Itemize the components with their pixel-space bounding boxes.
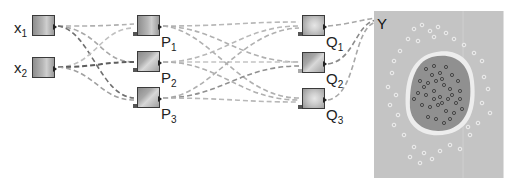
node-label-x1: x1	[14, 20, 27, 39]
node-label-p3: P3	[161, 106, 177, 125]
input-node-x2[interactable]	[32, 57, 55, 78]
input-node-x1[interactable]	[32, 15, 55, 36]
node-label-q3: Q3	[326, 107, 343, 126]
node-label-x2: x2	[14, 60, 27, 79]
output-label-y: Y	[377, 15, 387, 32]
hidden-node-q3[interactable]	[302, 88, 325, 109]
node-label-p1: P1	[161, 34, 177, 53]
decision-surface	[374, 11, 503, 178]
output-port-icon	[158, 96, 162, 102]
node-label-q1: Q1	[326, 34, 343, 53]
network-diagram: x1 x2 P1 P2 P3 Q1 Q2	[0, 0, 519, 190]
hidden-node-p1[interactable]	[137, 15, 160, 36]
input-port-icon	[133, 104, 137, 108]
node-label-q2: Q2	[326, 71, 343, 90]
input-port-icon	[133, 32, 137, 36]
output-port-icon	[53, 66, 57, 72]
output-map-panel: Y	[374, 11, 504, 178]
output-port-icon	[53, 24, 57, 30]
output-port-icon	[323, 61, 327, 67]
output-port-icon	[158, 24, 162, 30]
input-port-icon	[298, 32, 302, 36]
hidden-node-q1[interactable]	[302, 15, 325, 36]
input-port-icon	[133, 68, 137, 72]
hidden-node-p3[interactable]	[137, 87, 160, 108]
output-port-icon	[323, 97, 327, 103]
output-port-icon	[323, 24, 327, 30]
input-port-icon	[298, 105, 302, 109]
node-label-p2: P2	[161, 70, 177, 89]
input-port-icon	[298, 69, 302, 73]
output-port-icon	[158, 60, 162, 66]
hidden-node-q2[interactable]	[302, 52, 325, 73]
hidden-node-p2[interactable]	[137, 51, 160, 72]
